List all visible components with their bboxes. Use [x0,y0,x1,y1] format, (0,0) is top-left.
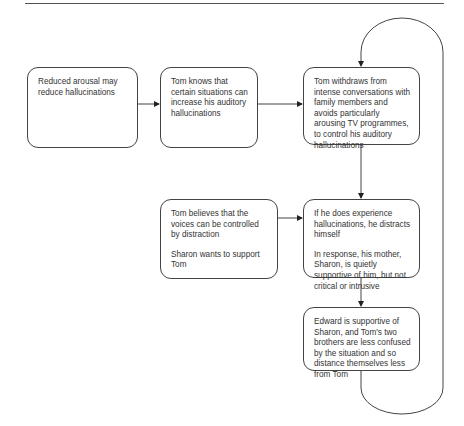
box-tom-believes: Tom believes that the voices can be cont… [160,199,278,279]
box-text: Tom believes that the voices can be cont… [171,209,269,241]
box-text: In response, his mother, Sharon, is quie… [314,250,411,292]
box-tom-knows: Tom knows that certain situations can in… [160,67,258,148]
box-text: Tom knows that certain situations can in… [171,77,249,119]
box-text: If he does experience hallucinations, he… [314,209,411,241]
box-text: Reduced arousal may reduce hallucination… [38,77,129,98]
box-distracts-himself: If he does experience hallucinations, he… [303,199,420,278]
box-edward-supportive: Edward is supportive of Sharon, and Tom'… [303,307,420,371]
box-reduced-arousal: Reduced arousal may reduce hallucination… [27,67,138,148]
box-tom-withdraws: Tom withdraws from intense conversations… [303,67,420,145]
box-text: Edward is supportive of Sharon, and Tom'… [314,317,411,381]
box-text: Sharon wants to support Tom [171,250,269,271]
box-text: Tom withdraws from intense conversations… [314,77,411,151]
